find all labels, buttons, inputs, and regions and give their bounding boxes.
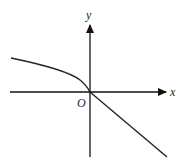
right-line-branch (90, 92, 167, 157)
x-axis-label: x (169, 85, 176, 99)
left-curve-branch (11, 58, 90, 92)
origin-label: O (77, 96, 86, 110)
function-graph: y x O (0, 0, 183, 168)
y-axis-label: y (85, 8, 92, 22)
